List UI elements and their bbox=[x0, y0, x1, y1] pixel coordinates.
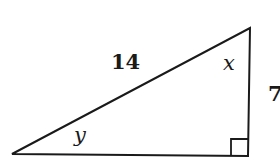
angle-x-label: x bbox=[223, 51, 235, 75]
vertical-side-label: 7 bbox=[268, 81, 280, 106]
triangle-figure: 14 7 x y bbox=[0, 0, 280, 164]
angle-y-label: y bbox=[73, 123, 87, 147]
triangle-diagram: 14 7 x y bbox=[0, 0, 280, 164]
right-triangle bbox=[12, 28, 250, 156]
hypotenuse-label: 14 bbox=[111, 49, 140, 74]
right-angle-marker bbox=[231, 139, 248, 156]
